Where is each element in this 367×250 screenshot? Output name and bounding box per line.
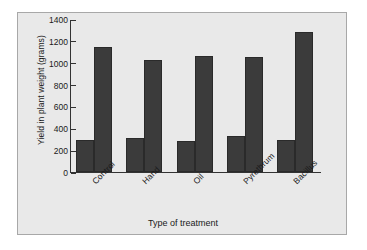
- y-axis-tick-mark: [71, 173, 76, 174]
- y-axis-tick-label: 200: [54, 146, 68, 156]
- y-axis-tick: 400: [32, 124, 76, 134]
- bar: [94, 47, 112, 172]
- y-axis-tick-mark: [71, 85, 76, 86]
- y-axis-tick-label: 400: [54, 124, 68, 134]
- y-axis-tick: 0: [32, 168, 76, 178]
- x-axis-category-label: Oil: [191, 171, 206, 186]
- y-axis-tick-label: 1000: [49, 59, 68, 69]
- y-axis-tick-label: 1400: [49, 15, 68, 25]
- bar: [227, 136, 245, 172]
- y-axis-tick: 600: [32, 102, 76, 112]
- bar: [295, 32, 313, 172]
- y-axis-tick-label: 800: [54, 81, 68, 91]
- y-axis-tick: 200: [32, 146, 76, 156]
- bar: [177, 141, 195, 172]
- y-axis-tick-mark: [71, 107, 76, 108]
- x-axis-title: Type of treatment: [18, 218, 348, 228]
- y-axis-tick-label: 1200: [49, 37, 68, 47]
- bar: [195, 56, 213, 172]
- y-axis-tick-label: 600: [54, 102, 68, 112]
- y-axis-tick: 800: [32, 81, 76, 91]
- bar: [277, 140, 295, 172]
- y-axis-tick-mark: [71, 129, 76, 130]
- bar: [76, 140, 94, 172]
- bar: [245, 57, 263, 172]
- bar: [144, 60, 162, 172]
- y-axis-tick: 1400: [32, 15, 76, 25]
- plot-area: 0200400600800100012001400 ControlHandOil…: [70, 20, 321, 173]
- y-axis-tick-label: 0: [63, 168, 68, 178]
- y-axis-tick: 1200: [32, 37, 76, 47]
- y-axis-tick-mark: [71, 63, 76, 64]
- y-axis-tick-mark: [71, 20, 76, 21]
- chart-figure: Yield in plant weight (grams) 0200400600…: [17, 12, 347, 235]
- y-axis-tick-mark: [71, 41, 76, 42]
- bar: [126, 138, 144, 172]
- y-axis-tick: 1000: [32, 59, 76, 69]
